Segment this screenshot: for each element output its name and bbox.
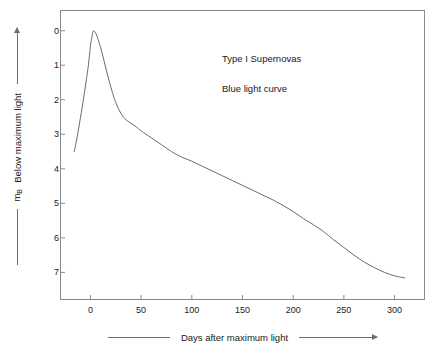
y-axis-title-group: Below maximum light mB xyxy=(8,28,26,292)
x-tick-label-200: 200 xyxy=(286,306,301,315)
y-axis-up-arrow-icon xyxy=(17,28,18,84)
x-axis-title-group: Days after maximum light xyxy=(60,330,425,344)
y-tick-label-6: 6 xyxy=(54,233,59,242)
y-tick-label-7: 7 xyxy=(54,268,59,277)
y-tick-label-4: 4 xyxy=(54,164,59,173)
y-tick-label-5: 5 xyxy=(54,199,59,208)
annotation-supernova-type: Type I Supernovas xyxy=(222,53,301,64)
y-axis-symbol-subscript: B xyxy=(16,189,23,194)
x-axis-right-arrow-icon xyxy=(299,337,377,338)
y-axis-symbol: mB xyxy=(11,189,23,204)
x-tick-label-100: 100 xyxy=(184,306,199,315)
x-tick-label-250: 250 xyxy=(336,306,351,315)
y-axis-bottom-rule xyxy=(17,209,18,265)
supernova-light-curve-figure: 050100150200250300 01234567 Type I Super… xyxy=(0,0,441,356)
annotation-curve-band: Blue light curve xyxy=(222,83,287,94)
y-tick-label-2: 2 xyxy=(54,95,59,104)
x-tick-label-50: 50 xyxy=(136,306,146,315)
x-axis-left-rule xyxy=(108,337,170,338)
y-tick-label-3: 3 xyxy=(54,130,59,139)
x-axis-title: Days after maximum light xyxy=(172,332,297,343)
x-tick-label-300: 300 xyxy=(387,306,402,315)
y-axis-symbol-main: m xyxy=(11,193,22,201)
y-tick-label-1: 1 xyxy=(54,61,59,70)
y-tick-label-0: 0 xyxy=(54,26,59,35)
x-tick-label-0: 0 xyxy=(88,306,93,315)
x-tick-label-150: 150 xyxy=(235,306,250,315)
y-axis-title: Below maximum light xyxy=(12,87,23,189)
